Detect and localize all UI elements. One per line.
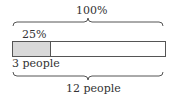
part-quantity-label: 3 people [12, 58, 60, 70]
top-label: 100% [76, 5, 107, 17]
top-brace [13, 18, 163, 26]
total-quantity-label: 12 people [66, 83, 121, 95]
part-percent-label: 25% [22, 29, 46, 41]
tape-bar-part [13, 42, 51, 56]
bottom-brace [13, 72, 163, 80]
